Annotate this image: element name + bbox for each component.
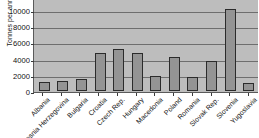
y-tick-label: 10000 (4, 8, 30, 16)
y-tick-label: 8000 (4, 24, 30, 32)
bar-slot (109, 0, 128, 91)
y-tick-mark (31, 61, 34, 62)
y-tick-label: 2000 (4, 73, 30, 81)
y-tick-mark (31, 28, 34, 29)
bar-slot (35, 0, 54, 91)
bar-slot (54, 0, 73, 91)
y-tick-mark (31, 12, 34, 13)
y-tick-label: 0 (4, 89, 30, 97)
y-tick-label: 6000 (4, 40, 30, 48)
y-tick-mark (31, 44, 34, 45)
bar-slot (202, 0, 221, 91)
bar (39, 82, 50, 91)
y-axis-tick-labels: 1000080006000400020000 (4, 0, 30, 138)
x-axis-category-labels: AlbaniaBosnia HerzegovinaBulgariaCroatia… (33, 96, 258, 138)
bar-chart: Tonnes per annum 1000080006000400020000 … (0, 0, 259, 138)
y-tick-label: 4000 (4, 57, 30, 65)
y-tick-mark (31, 77, 34, 78)
